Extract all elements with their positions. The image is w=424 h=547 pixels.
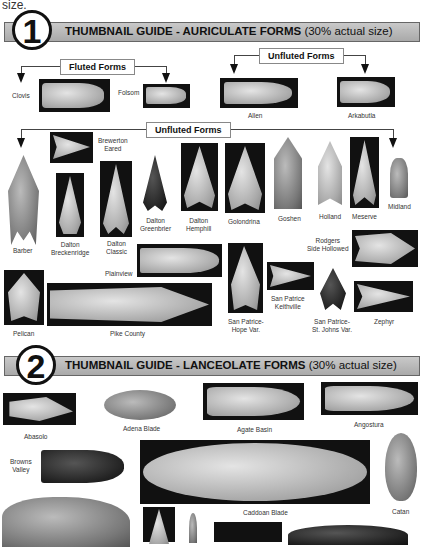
label-abasolo: Abasolo <box>24 433 48 441</box>
image-abasolo <box>3 393 76 425</box>
image-caddoan-blade <box>140 440 370 504</box>
label-holland: Holland <box>319 213 341 221</box>
image-midland <box>390 158 408 198</box>
image-san-patrice-keithville <box>267 262 314 290</box>
image-partial-bottom-2 <box>189 513 197 543</box>
label-dalton-hemphill: Dalton Hemphill <box>186 217 211 233</box>
unfluted-forms-label-top: Unfluted Forms <box>259 48 344 64</box>
label-golondrina: Golondrina <box>228 218 260 226</box>
image-dalton-breckenridge <box>56 173 84 237</box>
label-folsom: Folsom <box>118 89 139 97</box>
fluted-forms-label: Fluted Forms <box>60 59 135 75</box>
image-plainview <box>137 244 222 277</box>
image-barber <box>8 155 39 245</box>
label-clovis: Clovis <box>12 92 30 100</box>
label-san-patrice-st-johns: San Patrice- St. Johns Var. <box>312 318 352 334</box>
label-allen: Allen <box>248 112 262 120</box>
label-arkabutla: Arkabutla <box>348 112 375 120</box>
arrow-down-icon <box>389 138 397 148</box>
connector-line <box>218 129 393 130</box>
image-dalton-greenbrier <box>143 155 167 211</box>
label-adena-blade: Adena Blade <box>123 425 160 433</box>
connector-line <box>21 129 149 130</box>
section1-number-badge: 1 <box>12 10 52 50</box>
label-pike-county: Pike County <box>110 330 145 338</box>
image-zephyr <box>354 281 413 312</box>
image-clovis <box>39 79 110 112</box>
image-san-patrice-st-johns <box>320 268 346 310</box>
image-catan <box>385 433 417 501</box>
label-agate-basin: Agate Basin <box>237 426 272 434</box>
label-san-patrice-keithville: San Patrice Keithville <box>271 295 305 311</box>
image-partial-bottom-left <box>2 497 130 547</box>
label-browns-valley: Browns Valley <box>10 458 32 474</box>
image-agate-basin <box>203 383 304 420</box>
image-arkabutla <box>337 77 395 107</box>
image-partial-bottom-1 <box>143 507 175 542</box>
image-golondrina <box>225 143 265 213</box>
image-goshen <box>274 137 302 209</box>
arrow-down-icon <box>230 64 238 74</box>
label-goshen: Goshen <box>278 215 301 223</box>
connector-line <box>234 55 260 56</box>
arrow-down-icon <box>17 138 25 148</box>
label-dalton-classic: Dalton Classic <box>106 240 127 256</box>
label-catan: Catan <box>392 508 409 516</box>
arrow-down-icon <box>162 73 170 83</box>
image-pelican <box>4 270 44 325</box>
label-dalton-greenbrier: Dalton Greenbrier <box>140 217 171 233</box>
label-barber: Barber <box>13 247 33 255</box>
arrow-down-icon <box>361 64 369 74</box>
section1-title: THUMBNAIL GUIDE - AURICULATE FORMS (30% … <box>65 25 393 37</box>
image-meserve <box>350 137 379 208</box>
image-brewerton-eared <box>50 132 93 163</box>
label-brewerton-eared: Brewerton Eared <box>98 137 128 153</box>
label-plainview: Plainview <box>105 270 132 278</box>
image-dalton-hemphill <box>181 143 218 211</box>
section1-banner: THUMBNAIL GUIDE - AURICULATE FORMS (30% … <box>4 22 420 42</box>
lead-text: size. <box>2 0 27 12</box>
image-holland <box>318 141 342 205</box>
image-angostura <box>321 382 418 415</box>
label-dalton-breckenridge: Dalton Breckenridge <box>51 241 89 257</box>
image-dalton-classic <box>100 161 132 237</box>
image-adena-blade <box>104 390 176 420</box>
label-zephyr: Zephyr <box>374 318 394 326</box>
connector-line <box>21 66 61 67</box>
section2-banner: THUMBNAIL GUIDE - LANCEOLATE FORMS (30% … <box>4 356 420 376</box>
image-rodgers-side-hollowed <box>352 230 418 267</box>
image-folsom <box>143 84 190 108</box>
image-allen <box>220 78 298 108</box>
label-angostura: Angostura <box>354 421 384 429</box>
image-partial-bottom-3 <box>214 522 282 542</box>
image-san-patrice-hope <box>228 243 263 313</box>
image-partial-bottom-4 <box>288 525 408 545</box>
label-midland: Midland <box>388 203 411 211</box>
label-pelican: Pelican <box>13 330 34 338</box>
unfluted-forms-label-mid: Unfluted Forms <box>146 122 231 138</box>
arrow-down-icon <box>17 73 25 83</box>
section2-title: THUMBNAIL GUIDE - LANCEOLATE FORMS (30% … <box>65 359 397 371</box>
label-rodgers-side-hollowed: Rodgers Side Hollowed <box>307 237 349 253</box>
label-san-patrice-hope: San Patrice- Hope Var. <box>228 318 264 334</box>
label-meserve: Meserve <box>352 213 377 221</box>
label-caddoan-blade: Caddoan Blade <box>243 509 288 517</box>
image-browns-valley <box>41 450 124 483</box>
image-pike-county <box>47 283 212 326</box>
section2-number-badge: 2 <box>16 345 56 385</box>
